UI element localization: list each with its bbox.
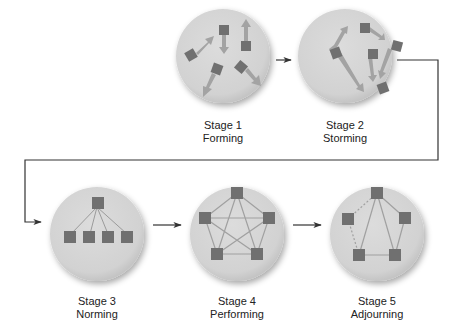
stage-2-name: Storming <box>285 132 405 145</box>
stage-3-norming-circle <box>50 187 144 281</box>
stage-3-label: Stage 3 Norming <box>37 295 157 321</box>
stage-5-number: Stage 5 <box>317 295 437 308</box>
stage-1-label: Stage 1 Forming <box>163 119 283 145</box>
stage-1-number: Stage 1 <box>163 119 283 132</box>
stage-2-label: Stage 2 Storming <box>285 119 405 145</box>
stage-5-adjourning-circle <box>330 187 424 281</box>
stage-2-number: Stage 2 <box>285 119 405 132</box>
stage-3-number: Stage 3 <box>37 295 157 308</box>
stage-4-number: Stage 4 <box>177 295 297 308</box>
stage-5-name: Adjourning <box>317 308 437 321</box>
team-development-diagram <box>0 0 464 323</box>
stage-4-name: Performing <box>177 308 297 321</box>
stage-3-name: Norming <box>37 308 157 321</box>
stage-1-name: Forming <box>163 132 283 145</box>
stage-5-label: Stage 5 Adjourning <box>317 295 437 321</box>
stage-1-forming-circle <box>176 9 270 103</box>
stage-4-label: Stage 4 Performing <box>177 295 297 321</box>
stage-4-performing-circle <box>190 187 284 281</box>
stage-2-storming-circle <box>298 9 403 103</box>
